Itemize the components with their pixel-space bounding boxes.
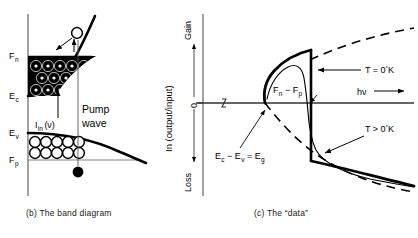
gain-curve-t0-tail	[311, 161, 414, 186]
conduction-label: Ec	[9, 91, 20, 103]
quasi-fermi-label: Fn − Fp	[273, 85, 302, 98]
electron-relax-arrow	[56, 38, 72, 50]
filled-carrier-circle	[73, 167, 84, 178]
gain-label: Gain	[183, 21, 193, 40]
temp-above-leader-arrow	[325, 136, 364, 153]
pump-wave-label-line2: wave	[81, 117, 107, 129]
electron-circle	[72, 28, 83, 39]
input-intensity-label: Iin(ν)	[35, 120, 55, 132]
valence-label: Ev	[9, 128, 20, 140]
fermi-p-label: Fp	[9, 155, 19, 168]
loss-label: Loss	[183, 172, 193, 192]
hole-circles	[30, 137, 85, 159]
figure-svg: Fn Ec Ev Fp Iin(ν) Pump wave In (	[0, 0, 418, 238]
band-diagram-panel: Fn Ec Ev Fp Iin(ν) Pump wave	[9, 14, 146, 196]
absorption-dashed-upper	[310, 28, 414, 60]
origin-label: 0	[189, 103, 199, 108]
caption-panel-c: (c) The “data”	[254, 208, 308, 218]
y-axis-label: In (output/input)	[163, 85, 174, 152]
caption-panel-b: (b) The band diagram	[26, 208, 112, 218]
bandgap-leader-arrow	[240, 110, 265, 148]
absorption-dashed-curve	[265, 103, 414, 192]
temp-above-label: T > 0°K	[365, 124, 394, 134]
pump-wave-label-line1: Pump	[82, 103, 110, 115]
photon-energy-label: hν	[357, 87, 367, 97]
bandgap-label: Ec − Ev = Eg	[215, 151, 265, 164]
electron-sea	[28, 56, 98, 98]
temp-zero-label: T = 0°K	[365, 65, 394, 75]
figure-container: Fn Ec Ev Fp Iin(ν) Pump wave In (	[0, 0, 418, 238]
fermi-n-label: Fn	[9, 51, 19, 63]
data-plot-panel: In (output/input) Gain Loss 0 hν T = 0°K…	[163, 14, 414, 196]
